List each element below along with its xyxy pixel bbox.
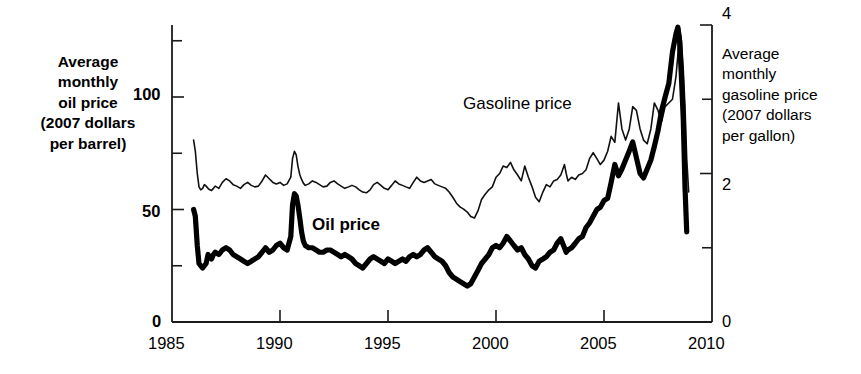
series-line-gasoline-price <box>194 29 689 218</box>
axes-group <box>172 25 712 322</box>
chart-container: Average monthly oil price (2007 dollars … <box>0 0 861 374</box>
series-line-oil-price <box>194 27 687 286</box>
plot-area <box>0 0 861 374</box>
